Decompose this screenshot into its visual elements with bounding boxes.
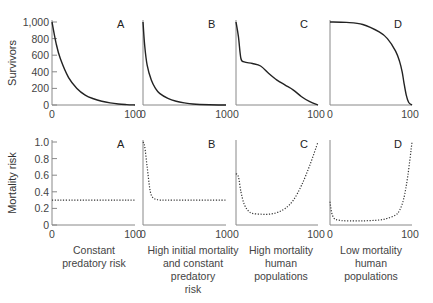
- y-tick-label: 0: [43, 219, 49, 231]
- x-tick-0: 0: [233, 228, 239, 240]
- panel-label-D: D: [394, 18, 402, 30]
- axes-mortality-C: [236, 140, 318, 225]
- x-tick-0: 0: [140, 228, 146, 240]
- x-tick-100: 100: [401, 228, 419, 240]
- panel-label-C: C: [300, 18, 308, 30]
- curve-survivorship-B: [143, 22, 226, 105]
- y-tick-label: 0: [43, 99, 49, 111]
- caption-panel-a: Constant predatory risk: [40, 244, 148, 270]
- y-tick-label: 0.2: [34, 202, 49, 214]
- panel-label-B: B: [208, 138, 215, 150]
- axes-mortality-D: [330, 140, 412, 225]
- panel-label-A: A: [117, 138, 125, 150]
- y-tick-label: 200: [31, 82, 49, 94]
- x-tick-0: 0: [140, 108, 146, 120]
- x-tick-100: 100: [307, 228, 325, 240]
- y-tick-label: 0.4: [34, 186, 49, 198]
- curve-survivorship-D: [330, 22, 412, 105]
- y-tick-label: 1.0: [34, 136, 49, 148]
- panel-label-D: D: [394, 138, 402, 150]
- x-tick-100: 100: [307, 108, 325, 120]
- curve-mortality-C: [236, 142, 318, 214]
- survivors-axis-label: Survivors: [6, 40, 18, 86]
- panel-label-A: A: [117, 18, 125, 30]
- axes-mortality-B: [143, 140, 226, 225]
- x-tick-100: 100: [401, 108, 419, 120]
- axes-mortality-A: [52, 140, 135, 225]
- x-tick-0: 0: [327, 108, 333, 120]
- y-tick-label: 0.8: [34, 153, 49, 165]
- x-tick-100: 100: [215, 228, 233, 240]
- y-tick-label: 600: [31, 49, 49, 61]
- x-tick-100: 100: [215, 108, 233, 120]
- curve-survivorship-C: [236, 22, 318, 105]
- y-tick-label: 1,000: [23, 16, 49, 28]
- mortality-axis-label: Mortality risk: [6, 152, 18, 214]
- x-tick-0: 0: [49, 108, 55, 120]
- caption-panel-c: High mortality human populations: [238, 244, 324, 283]
- curve-mortality-B: [143, 142, 226, 200]
- y-tick-label: 400: [31, 66, 49, 78]
- axes-survivorship-B: [143, 20, 226, 105]
- panel-label-B: B: [208, 18, 215, 30]
- curve-mortality-D: [330, 142, 412, 221]
- caption-panel-b: High initial mortality and constant pred…: [143, 244, 243, 296]
- x-tick-0: 0: [327, 228, 333, 240]
- y-tick-label: 800: [31, 33, 49, 45]
- panel-label-C: C: [300, 138, 308, 150]
- y-tick-label: 0.6: [34, 169, 49, 181]
- axes-survivorship-A: [52, 20, 135, 105]
- x-tick-0: 0: [233, 108, 239, 120]
- caption-panel-d: Low mortality human populations: [326, 244, 416, 283]
- curve-survivorship-A: [52, 22, 135, 105]
- x-tick-0: 0: [49, 228, 55, 240]
